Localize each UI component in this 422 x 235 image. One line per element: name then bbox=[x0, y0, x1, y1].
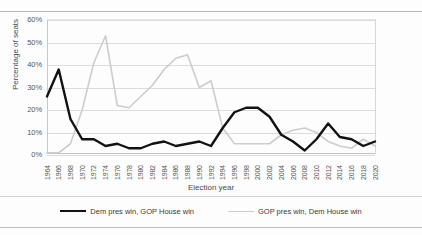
x-axis-tick-label: 2014 bbox=[336, 156, 343, 180]
x-axis-tick-label: 1984 bbox=[161, 156, 168, 180]
x-axis-tick-label: 2004 bbox=[278, 156, 285, 180]
x-axis-tick-label: 1966 bbox=[55, 156, 62, 180]
y-axis-tick-label: 30% bbox=[27, 82, 42, 91]
x-axis-tick-label: 2002 bbox=[266, 156, 273, 180]
legend-swatch-icon-gray bbox=[228, 211, 254, 212]
y-axis-tick-label: 60% bbox=[27, 15, 42, 24]
y-axis-tick-label: 50% bbox=[27, 37, 42, 46]
plot-area bbox=[47, 19, 376, 154]
y-axis-tick-label: 10% bbox=[27, 127, 42, 136]
legend-item-gop-pres-win[interactable]: GOP pres win, Dem House win bbox=[228, 207, 362, 216]
line-chart: 60%50%40%30%20%10%0% Percentage of seats… bbox=[0, 0, 422, 235]
legend-item-dem-pres-win[interactable]: Dem pres win, GOP House win bbox=[60, 207, 194, 216]
y-axis-tick-label: 40% bbox=[27, 60, 42, 69]
x-axis-tick-label: 2008 bbox=[301, 156, 308, 180]
x-axis-tick-label: 1982 bbox=[149, 156, 156, 180]
chart-legend: Dem pres win, GOP House win GOP pres win… bbox=[0, 203, 422, 219]
x-axis-tick-label: 1996 bbox=[231, 156, 238, 180]
x-axis-tick-label: 1970 bbox=[79, 156, 86, 180]
x-axis-tick-label: 1972 bbox=[90, 156, 97, 180]
x-axis-tick-label: 1974 bbox=[102, 156, 109, 180]
x-axis-tick-label: 2010 bbox=[313, 156, 320, 180]
x-axis-labels: 1964196619681970197219741976197819801982… bbox=[47, 156, 376, 182]
x-axis-tick-label: 2000 bbox=[254, 156, 261, 180]
x-axis-title: Election year bbox=[0, 183, 422, 192]
chart-title-clipped bbox=[0, 0, 422, 11]
y-axis-title: Percentage of seats bbox=[11, 0, 20, 110]
x-axis-tick-label: 2018 bbox=[360, 156, 367, 180]
series-line bbox=[47, 36, 375, 153]
x-axis-tick-label: 1976 bbox=[114, 156, 121, 180]
x-axis-tick-label: 1964 bbox=[44, 156, 51, 180]
legend-top-divider bbox=[0, 196, 422, 197]
legend-swatch-icon-black bbox=[60, 210, 86, 212]
y-axis-tick-label: 0% bbox=[31, 150, 42, 159]
series-lines bbox=[47, 20, 376, 155]
x-axis-tick-label: 2012 bbox=[325, 156, 332, 180]
y-axis-labels: 60%50%40%30%20%10%0% bbox=[16, 19, 45, 154]
y-axis-tick-label: 20% bbox=[27, 105, 42, 114]
x-axis-tick-label: 2016 bbox=[348, 156, 355, 180]
x-axis-tick-label: 1990 bbox=[196, 156, 203, 180]
x-axis-tick-label: 2020 bbox=[372, 156, 379, 180]
legend-label: GOP pres win, Dem House win bbox=[258, 207, 362, 216]
x-axis-tick-label: 1986 bbox=[172, 156, 179, 180]
x-axis-tick-label: 1968 bbox=[67, 156, 74, 180]
bottom-divider bbox=[0, 227, 422, 228]
x-axis-tick-label: 1988 bbox=[184, 156, 191, 180]
legend-label: Dem pres win, GOP House win bbox=[90, 207, 194, 216]
x-axis-tick-label: 1980 bbox=[137, 156, 144, 180]
x-axis-tick-label: 1998 bbox=[243, 156, 250, 180]
top-divider bbox=[0, 11, 422, 12]
x-axis-tick-label: 1994 bbox=[219, 156, 226, 180]
x-axis-tick-label: 1992 bbox=[208, 156, 215, 180]
x-axis-tick-label: 2006 bbox=[290, 156, 297, 180]
x-axis-tick-label: 1978 bbox=[126, 156, 133, 180]
